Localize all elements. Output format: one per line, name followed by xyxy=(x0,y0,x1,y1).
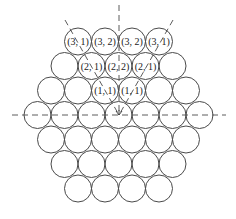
circle-label: (1, 1) xyxy=(121,85,143,97)
circle xyxy=(105,151,132,178)
circle-label: (2, 2) xyxy=(108,61,130,73)
circle xyxy=(146,126,173,153)
circle-label: (2, 1) xyxy=(135,61,157,73)
circle xyxy=(78,151,105,178)
circle-label: (3, 1) xyxy=(67,36,89,48)
circle xyxy=(173,126,200,153)
circle xyxy=(92,126,119,153)
circle-label: (3, 2) xyxy=(121,36,143,48)
circle xyxy=(119,175,146,202)
circle xyxy=(159,53,186,80)
circle xyxy=(159,151,186,178)
circle xyxy=(186,102,213,129)
circle xyxy=(132,151,159,178)
circle xyxy=(65,126,92,153)
circle xyxy=(146,77,173,104)
circle xyxy=(146,175,173,202)
circle xyxy=(92,175,119,202)
circle xyxy=(51,53,78,80)
circle xyxy=(65,77,92,104)
circle xyxy=(119,126,146,153)
circle-packing-diagram: (3, 1)(3, 2)(3, 2)(3, 1)(2, 1)(2, 2)(2, … xyxy=(0,0,236,219)
circle-label: (2, 1) xyxy=(81,61,103,73)
circle xyxy=(38,77,65,104)
circle-label: (3, 2) xyxy=(94,36,116,48)
circle xyxy=(65,175,92,202)
circle-label: (3, 1) xyxy=(148,36,170,48)
circle xyxy=(173,77,200,104)
circle-label: (1, 1) xyxy=(94,85,116,97)
circle xyxy=(51,151,78,178)
circle xyxy=(38,126,65,153)
